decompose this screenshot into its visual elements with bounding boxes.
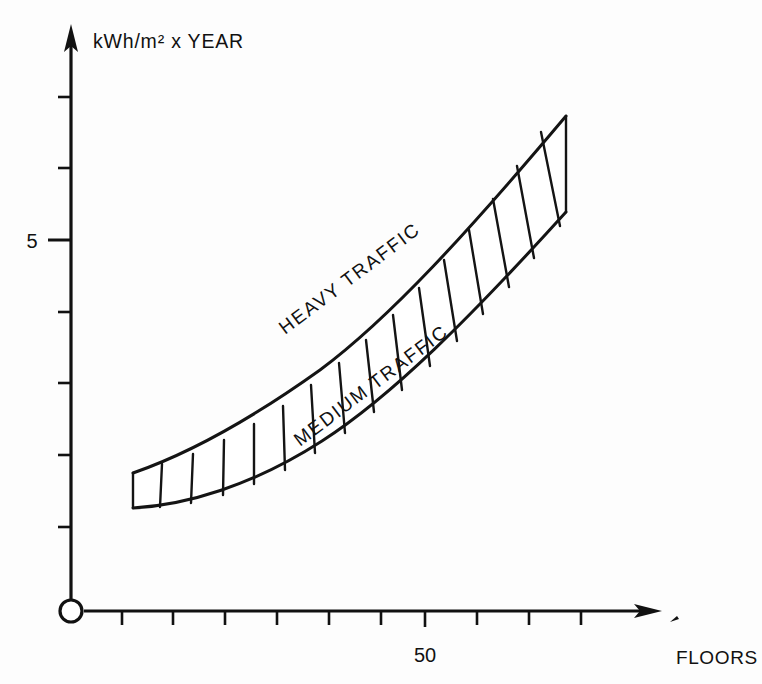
y-axis-group: 5 kWh/m² x YEAR: [26, 24, 243, 611]
axis-end-flick-icon: [670, 616, 679, 622]
band-area-fill: [133, 116, 566, 508]
chart-figure: 5 kWh/m² x YEAR 50 FLOORS: [0, 0, 762, 684]
x-axis-name-label: FLOORS: [676, 647, 758, 668]
traffic-band-group: [133, 116, 566, 508]
x-axis-group: 50 FLOORS: [60, 600, 758, 668]
x-axis-tick-label-50: 50: [414, 644, 436, 666]
y-axis-tick-label-5: 5: [26, 230, 37, 252]
chart-canvas: 5 kWh/m² x YEAR 50 FLOORS: [0, 0, 762, 684]
y-axis-unit-label: kWh/m² x YEAR: [93, 30, 244, 52]
origin-marker: [60, 600, 82, 622]
